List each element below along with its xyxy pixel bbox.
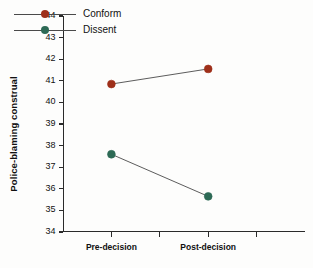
data-point-marker <box>204 192 212 200</box>
chart-figure: Police-blaming construal 343536373839404… <box>0 0 313 268</box>
x-tick <box>111 232 112 237</box>
data-point-marker <box>108 80 116 88</box>
y-tick-label: 38 <box>45 139 55 151</box>
data-series-layer <box>63 16 305 232</box>
legend-item[interactable]: Dissent <box>14 22 144 38</box>
x-tick <box>256 232 257 237</box>
x-tick <box>208 232 209 237</box>
legend-marker-icon <box>41 10 49 18</box>
y-tick-label: 37 <box>45 160 55 172</box>
chart-legend: ConformDissent <box>14 6 144 38</box>
series-line <box>111 154 208 196</box>
data-point-marker <box>204 65 212 73</box>
y-tick-label: 35 <box>45 203 55 215</box>
legend-item[interactable]: Conform <box>14 6 144 22</box>
data-point-marker <box>108 150 116 158</box>
x-axis-category-label: Pre-decision <box>86 242 137 252</box>
legend-marker-icon <box>41 26 49 34</box>
y-tick-label: 39 <box>45 117 55 129</box>
plot-area: 3435363738394041424344 Pre-decisionPost-… <box>63 16 305 232</box>
y-tick-label: 40 <box>45 95 55 107</box>
x-axis-category-label: Post-decision <box>180 242 236 252</box>
x-tick <box>159 232 160 237</box>
y-tick-label: 42 <box>45 52 55 64</box>
y-tick-label: 34 <box>45 225 55 237</box>
legend-label: Dissent <box>83 22 116 38</box>
y-tick-label: 41 <box>45 74 55 86</box>
series-line <box>111 69 208 84</box>
legend-label: Conform <box>83 6 121 22</box>
y-tick-label: 36 <box>45 182 55 194</box>
y-axis-title: Police-blaming construal <box>0 0 26 268</box>
